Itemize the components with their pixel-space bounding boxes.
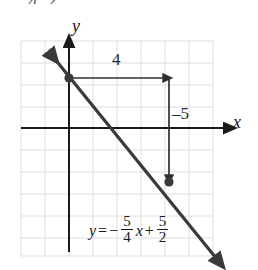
point-second: [164, 177, 173, 186]
y-axis-label: y: [72, 16, 80, 37]
intercept-fraction: 5 2: [157, 214, 169, 245]
rise-label: –5: [172, 104, 189, 124]
slope-numerator: 5: [121, 214, 133, 229]
graph-figure: 4 2: [0, 0, 258, 270]
equation-equals: =: [98, 222, 107, 240]
run-label: 4: [112, 50, 121, 70]
intercept-numerator: 5: [157, 214, 169, 229]
x-axis-label: x: [233, 112, 241, 133]
equation-lhs: y: [89, 222, 96, 240]
slope-fraction: 5 4: [121, 214, 133, 245]
equation-label: y = − 5 4 x + 5 2: [89, 215, 169, 246]
equation-variable: x: [136, 222, 143, 240]
equation-plus: +: [145, 222, 154, 240]
intercept-denominator: 2: [157, 229, 169, 245]
slope-denominator: 4: [121, 229, 133, 245]
equation-minus: −: [109, 222, 118, 240]
point-y-intercept: [64, 73, 73, 82]
